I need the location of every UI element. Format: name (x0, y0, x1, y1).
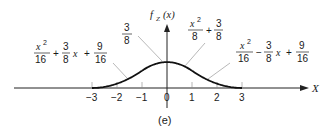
leader-left (113, 63, 127, 78)
leader-middle (185, 43, 205, 66)
svg-text:x: x (189, 18, 195, 29)
figure-caption: (e) (158, 114, 171, 126)
x-tick-label: 2 (214, 92, 220, 103)
svg-text:8: 8 (216, 31, 222, 42)
x-axis-arrow-icon (300, 85, 309, 91)
svg-text:8: 8 (124, 35, 130, 46)
x-tick-label: −2 (111, 92, 123, 103)
svg-text:9: 9 (97, 41, 103, 52)
svg-text:2: 2 (247, 38, 251, 45)
svg-text:+: + (206, 25, 212, 36)
svg-text:8: 8 (266, 53, 272, 64)
x-axis-label: X (311, 82, 320, 94)
svg-text:x: x (239, 40, 245, 51)
annotation-peak: 3 8 (122, 22, 132, 46)
svg-text:16: 16 (238, 53, 250, 64)
svg-text:3: 3 (124, 22, 130, 33)
svg-text:x: x (72, 48, 78, 59)
x-tick-label: −1 (136, 92, 148, 103)
annotation-left: x 2 16 + 3 8 x + 9 16 (34, 39, 107, 65)
svg-text:x: x (35, 41, 41, 52)
annotation-middle: x 2 8 + 3 8 (188, 16, 223, 42)
svg-text:x: x (275, 47, 281, 58)
svg-text:3: 3 (266, 40, 272, 51)
x-tick-label: −3 (86, 92, 98, 103)
svg-text:16: 16 (95, 54, 107, 65)
svg-text:+: + (286, 47, 292, 58)
leader-right (208, 63, 230, 79)
svg-text:+: + (53, 48, 59, 59)
svg-text:3: 3 (216, 18, 222, 29)
svg-text:2: 2 (197, 16, 201, 23)
chart: X f Z (x) −3−2−10123 x 2 16 + 3 8 x + 9 … (0, 0, 327, 132)
svg-text:3: 3 (63, 41, 69, 52)
x-tick-label: 0 (164, 92, 170, 103)
leader-peak (138, 36, 162, 61)
svg-text:8: 8 (63, 54, 69, 65)
y-axis-label: f Z (x) (150, 9, 175, 23)
svg-text:(x): (x) (163, 9, 175, 21)
svg-text:8: 8 (192, 31, 198, 42)
x-tick-label: 3 (239, 92, 245, 103)
svg-text:−: − (256, 47, 262, 58)
svg-text:16: 16 (35, 54, 47, 65)
svg-text:Z: Z (156, 15, 160, 23)
x-tick-label: 1 (189, 92, 195, 103)
svg-text:+: + (84, 48, 90, 59)
svg-text:f: f (150, 9, 155, 20)
svg-text:9: 9 (299, 40, 305, 51)
svg-text:2: 2 (43, 39, 47, 46)
annotation-right: x 2 16 − 3 8 x + 9 16 (236, 38, 309, 64)
y-axis-arrow-icon (164, 24, 170, 32)
svg-text:16: 16 (297, 53, 309, 64)
